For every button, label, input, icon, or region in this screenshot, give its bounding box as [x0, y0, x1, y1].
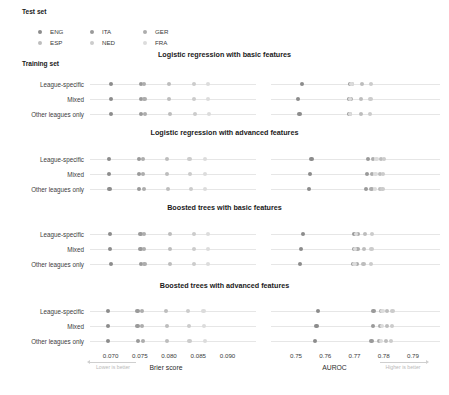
data-point-brier-ger: [141, 157, 145, 161]
data-point-brier-ita: [135, 324, 139, 328]
legend-label-fra: FRA: [155, 39, 167, 46]
data-point-brier-ned: [192, 262, 196, 266]
data-point-brier-eng: [107, 187, 111, 191]
data-point-brier-fra: [206, 247, 210, 251]
data-point-auroc-ita: [365, 172, 369, 176]
data-point-auroc-fra: [380, 324, 384, 328]
data-point-brier-eng: [107, 157, 111, 161]
data-point-auroc-eng: [307, 187, 311, 191]
data-point-brier-eng: [108, 232, 112, 236]
row-label-mixed: Mixed: [6, 171, 84, 178]
panel-title-4: Boosted trees with advanced features: [0, 281, 449, 290]
data-point-brier-fra: [206, 97, 210, 101]
legend-label-eng: ENG: [50, 28, 63, 35]
data-point-auroc-fra: [373, 172, 377, 176]
data-point-brier-ger: [140, 309, 144, 313]
data-point-brier-fra: [203, 187, 207, 191]
data-point-brier-ger: [141, 339, 145, 343]
data-point-brier-esp: [166, 187, 170, 191]
data-point-auroc-ned: [381, 172, 385, 176]
data-point-auroc-ned: [380, 187, 384, 191]
data-point-auroc-fra: [352, 262, 356, 266]
data-point-auroc-ned: [390, 309, 394, 313]
panel-title-3: Boosted trees with basic features: [0, 203, 449, 212]
higher-is-better-arrow: [380, 362, 426, 363]
data-point-brier-esp: [165, 172, 169, 176]
data-point-brier-eng: [109, 262, 113, 266]
data-point-brier-ger: [142, 97, 146, 101]
data-point-auroc-esp: [359, 112, 363, 116]
brier-tick-0.090: 0.090: [208, 352, 248, 359]
data-point-auroc-eng: [300, 82, 304, 86]
data-point-auroc-fra: [379, 339, 383, 343]
row-guide-line: [90, 341, 256, 342]
legend-test-set-heading: Test set: [22, 8, 46, 15]
data-point-brier-esp: [168, 232, 172, 236]
data-point-auroc-ita: [371, 324, 375, 328]
data-point-brier-ita: [137, 187, 141, 191]
data-point-brier-ita: [137, 172, 141, 176]
row-guide-line: [90, 114, 256, 115]
legend-label-ger: GER: [155, 28, 168, 35]
data-point-brier-ger: [141, 172, 145, 176]
data-point-brier-esp: [168, 112, 172, 116]
row-label-league-specific: League-specific: [6, 156, 84, 163]
data-point-brier-esp: [167, 97, 171, 101]
figure-canvas: Test set ENGITAGERESPNEDFRA Training set…: [0, 0, 449, 395]
data-point-brier-ned: [193, 112, 197, 116]
data-point-auroc-ned: [390, 324, 394, 328]
legend-label-ita: ITA: [102, 28, 111, 35]
data-point-auroc-ned: [369, 262, 373, 266]
data-point-brier-esp: [168, 247, 172, 251]
data-point-brier-eng: [107, 172, 111, 176]
legend-label-ned: NED: [102, 39, 115, 46]
data-point-brier-ned: [192, 247, 196, 251]
data-point-auroc-eng: [296, 97, 300, 101]
data-point-brier-eng: [109, 112, 113, 116]
legend-label-esp: ESP: [50, 39, 62, 46]
row-label-mixed: Mixed: [6, 323, 84, 330]
auroc-tick-0.79: 0.79: [393, 352, 433, 359]
legend-marker-fra: [143, 41, 147, 45]
data-point-auroc-ned: [368, 112, 372, 116]
row-label-mixed: Mixed: [6, 96, 84, 103]
data-point-auroc-eng: [313, 339, 317, 343]
data-point-auroc-esp: [385, 324, 389, 328]
row-label-league-specific: League-specific: [6, 231, 84, 238]
row-label-other-leagues-only: Other leagues only: [6, 111, 84, 118]
row-label-league-specific: League-specific: [6, 308, 84, 315]
data-point-brier-esp: [167, 82, 171, 86]
row-label-other-leagues-only: Other leagues only: [6, 261, 84, 268]
row-guide-line: [271, 159, 440, 160]
data-point-brier-fra: [206, 262, 210, 266]
row-guide-line: [90, 99, 256, 100]
data-point-auroc-ned: [369, 82, 373, 86]
data-point-auroc-eng: [297, 112, 301, 116]
data-point-auroc-ned: [368, 97, 372, 101]
legend-training-set-heading: Training set: [22, 60, 59, 67]
data-point-brier-fra: [207, 112, 211, 116]
data-point-brier-ger: [142, 262, 146, 266]
data-point-brier-esp: [165, 157, 169, 161]
row-label-other-leagues-only: Other leagues only: [6, 338, 84, 345]
data-point-auroc-ita: [371, 309, 375, 313]
lower-is-better-arrow: [90, 362, 136, 363]
panel-title-1: Logistic regression with basic features: [0, 50, 449, 59]
data-point-brier-fra: [206, 82, 210, 86]
panel-title-2: Logistic regression with advanced featur…: [0, 128, 449, 137]
data-point-brier-fra: [206, 232, 210, 236]
data-point-auroc-esp: [384, 339, 388, 343]
row-guide-line: [90, 249, 256, 250]
data-point-auroc-esp: [359, 97, 363, 101]
legend-marker-ita: [90, 30, 94, 34]
data-point-auroc-fra: [349, 82, 353, 86]
data-point-brier-fra: [203, 157, 207, 161]
data-point-brier-ita: [135, 309, 139, 313]
row-guide-line: [90, 189, 256, 190]
data-point-brier-fra: [201, 309, 205, 313]
data-point-auroc-eng: [309, 157, 313, 161]
row-guide-line: [271, 84, 440, 85]
data-point-brier-eng: [109, 97, 113, 101]
row-guide-line: [90, 234, 256, 235]
data-point-auroc-ita: [369, 339, 373, 343]
